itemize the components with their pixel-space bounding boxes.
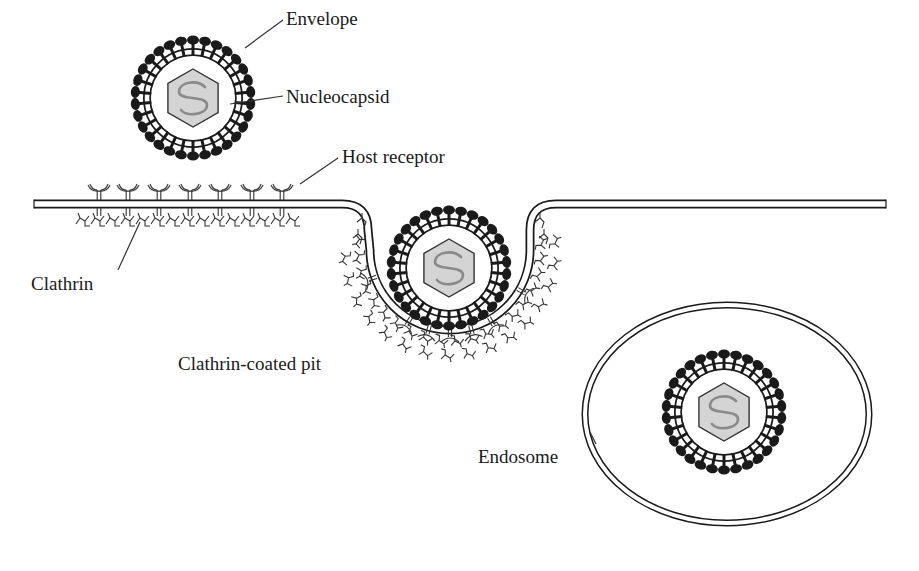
virion-free [130,36,256,161]
endocytosis-diagram: Envelope Nucleocapsid Host receptor Clat… [0,0,919,571]
label-endosome: Endosome [478,446,558,467]
label-nucleocapsid: Nucleocapsid [286,86,390,107]
label-host-receptor: Host receptor [342,146,446,167]
label-clathrin: Clathrin [31,273,94,294]
label-clathrin-coated-pit: Clathrin-coated pit [178,353,322,374]
label-envelope: Envelope [286,8,358,29]
virion-in-endosome [661,350,787,475]
